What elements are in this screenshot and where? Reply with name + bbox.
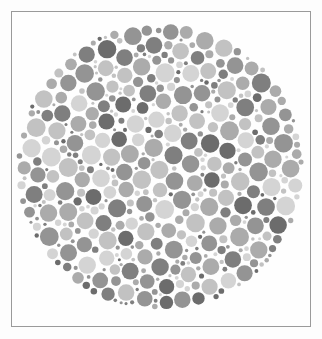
ishihara-plate-figure: Ishihara colour vision test plate (greys… xyxy=(0,0,322,339)
ishihara-dot-mosaic xyxy=(12,12,310,326)
plate-frame-border xyxy=(11,11,311,327)
